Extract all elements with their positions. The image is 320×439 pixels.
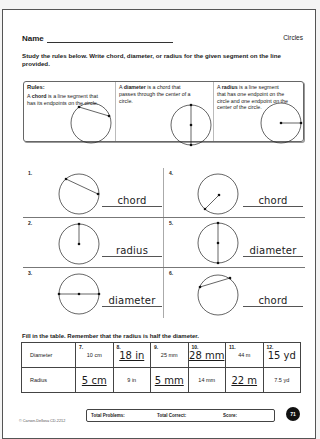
problem-number: 6. xyxy=(169,270,173,276)
diameter-diagram xyxy=(196,221,240,265)
problem-number: 10. xyxy=(192,344,199,350)
rule-chord: Rules: A chord is a line segment that ha… xyxy=(24,82,115,141)
answer-line xyxy=(102,256,162,257)
answer-text[interactable]: radius xyxy=(102,245,162,256)
table-cell[interactable]: 22 m xyxy=(226,368,264,393)
given-value: 14 mm xyxy=(198,377,215,383)
table-cell[interactable]: 10.28 mm xyxy=(188,343,226,368)
page-number-badge: 71 xyxy=(286,407,300,421)
given-value: 25 mm xyxy=(161,352,178,358)
diameter-diagram xyxy=(57,272,101,316)
score-box: Total Problems: Total Correct: Score: xyxy=(86,409,275,422)
answer-text[interactable]: diameter xyxy=(102,295,162,306)
problem-1: 1. chord xyxy=(23,168,164,218)
total-correct-label: Total Correct: xyxy=(157,413,186,418)
handwritten-answer[interactable]: 28 mm xyxy=(189,350,224,361)
total-problems-label: Total Problems: xyxy=(91,413,125,418)
rule-term: radius xyxy=(222,84,238,90)
table-cell[interactable]: 12.15 yd xyxy=(263,343,301,368)
given-value: 7.5 yd xyxy=(274,377,289,383)
table-instructions: Fill in the table. Remember that the rad… xyxy=(22,333,199,339)
table-cell: 9.25 mm xyxy=(151,343,189,368)
given-value: 9 in xyxy=(127,377,136,383)
problem-number: 9. xyxy=(154,344,158,350)
handwritten-answer[interactable]: 5 cm xyxy=(82,375,107,386)
chord-diagram xyxy=(196,273,240,317)
problem-4: 4. chord xyxy=(164,168,305,218)
answer-line xyxy=(243,306,303,307)
table-cell[interactable]: 8.18 in xyxy=(113,343,151,368)
answer-text[interactable]: chord xyxy=(243,195,303,206)
score-label: Score: xyxy=(223,413,237,418)
problem-number: 3. xyxy=(28,270,32,276)
answer-text[interactable]: chord xyxy=(243,295,303,306)
row-label: Diameter xyxy=(22,343,76,368)
problem-number: 11. xyxy=(229,344,236,350)
radius-circle-icon xyxy=(259,101,303,145)
problem-number: 8. xyxy=(117,344,121,350)
problem-number: 4. xyxy=(169,170,173,176)
table-cell: 9 in xyxy=(113,368,151,393)
problem-number: 5. xyxy=(169,220,173,226)
answer-text[interactable]: diameter xyxy=(243,245,303,256)
instructions: Study the rules below. Write chord, diam… xyxy=(22,52,302,68)
handwritten-answer[interactable]: 22 m xyxy=(231,375,257,386)
table-cell: 7.5 yd xyxy=(263,368,301,393)
given-value: 10 cm xyxy=(87,352,102,358)
problem-number: 1. xyxy=(28,170,32,176)
rules-title: Rules: xyxy=(27,84,112,91)
problem-2: 2. radius xyxy=(23,218,164,268)
diameter-circle-icon xyxy=(169,103,213,147)
answer-text[interactable]: chord xyxy=(102,195,162,206)
problem-6: 6. chord xyxy=(164,268,305,318)
answer-line xyxy=(243,206,303,207)
table-cell[interactable]: 5 mm xyxy=(151,368,189,393)
problem-number: 12. xyxy=(267,344,274,350)
table-cell: 11.44 m xyxy=(226,343,264,368)
table-cell[interactable]: 5 cm xyxy=(76,368,114,393)
table-row-diameter: Diameter 7.10 cm 8.18 in 9.25 mm 10.28 m… xyxy=(22,343,301,368)
rules-box: Rules: A chord is a line segment that ha… xyxy=(23,81,304,142)
chord-circle-icon xyxy=(69,101,113,145)
chord-diagram xyxy=(57,172,101,216)
row-label: Radius xyxy=(22,368,76,393)
diameter-radius-table: Diameter 7.10 cm 8.18 in 9.25 mm 10.28 m… xyxy=(21,342,301,393)
answer-line xyxy=(102,206,162,207)
topic-title: Circles xyxy=(283,34,303,41)
handwritten-answer[interactable]: 18 in xyxy=(119,350,144,361)
table-row-radius: Radius 5 cm 9 in 5 mm 14 mm 22 m 7.5 yd xyxy=(22,368,301,393)
given-value: 44 m xyxy=(238,352,250,358)
name-label: Name xyxy=(22,34,44,43)
table-cell: 7.10 cm xyxy=(76,343,114,368)
problem-number: 2. xyxy=(28,220,32,226)
answer-line xyxy=(102,306,162,307)
answer-line xyxy=(243,256,303,257)
radius-diagram xyxy=(196,172,240,216)
table-cell: 14 mm xyxy=(188,368,226,393)
problems-grid: 1. chord 2. radius 3. xyxy=(23,168,305,318)
problem-3: 3. diameter xyxy=(23,268,164,318)
problem-5: 5. diameter xyxy=(164,218,305,268)
handwritten-answer[interactable]: 5 mm xyxy=(155,375,184,386)
rule-diameter: A diameter is a chord that passes throug… xyxy=(115,82,213,141)
rule-term: chord xyxy=(32,93,47,99)
copyright: © Carson-Dellosa CD-2212 xyxy=(19,419,65,423)
rule-radius: A radius is a line segment that has one … xyxy=(213,82,305,141)
handwritten-answer[interactable]: 15 yd xyxy=(268,350,296,361)
problem-number: 7. xyxy=(79,344,83,350)
radius-diagram xyxy=(57,222,101,266)
rule-term: diameter xyxy=(124,84,146,90)
name-field-line[interactable] xyxy=(47,42,173,43)
